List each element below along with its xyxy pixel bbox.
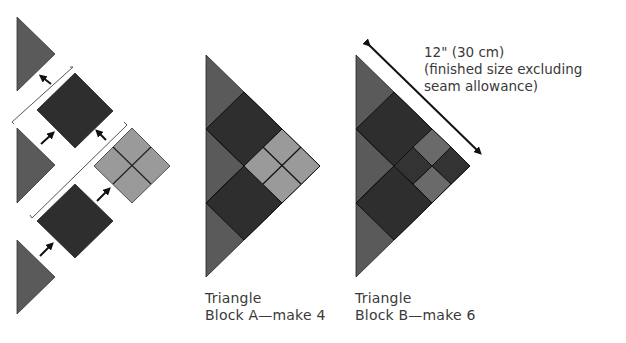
- dimension-line2: (finished size excluding: [424, 61, 582, 78]
- setting-triangle-bottom: [17, 240, 55, 314]
- arrow-lower-square-to-fourpatch: [97, 190, 108, 201]
- quilt-block-diagram: [0, 0, 626, 343]
- setting-triangle-middle: [17, 128, 55, 203]
- arrow-middle-to-upper-square: [41, 134, 52, 144]
- arrow-bottom-to-lower-square: [40, 245, 51, 256]
- setting-triangle-top: [17, 17, 55, 91]
- block-a-caption-line2: Block A—make 4: [205, 307, 326, 324]
- block-b-caption-line1: Triangle: [355, 290, 412, 307]
- assembly-diagram: [12, 17, 170, 314]
- block-a-caption-line1: Triangle: [205, 290, 262, 307]
- triangle-block-a: [206, 55, 320, 277]
- dimension-line1: 12" (30 cm): [424, 44, 504, 61]
- dimension-line3: seam allowance): [424, 78, 538, 95]
- arrow-fourpatch-to-upper-square: [98, 132, 106, 140]
- arrow-up-to-top-triangle: [42, 77, 51, 84]
- block-b-caption-line2: Block B—make 6: [355, 307, 476, 324]
